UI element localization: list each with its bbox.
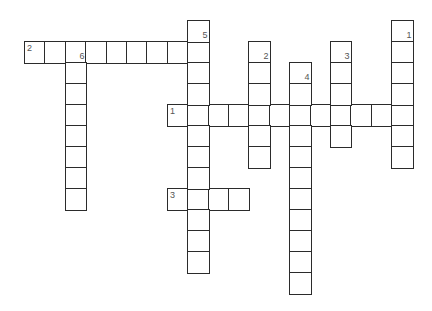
crossword-cell[interactable] bbox=[187, 251, 210, 274]
clue-number-down-3: 3 bbox=[345, 52, 350, 61]
crossword-cell[interactable] bbox=[187, 125, 210, 148]
crossword-cell[interactable] bbox=[289, 272, 312, 295]
crossword-cell[interactable] bbox=[289, 125, 312, 148]
crossword-cell[interactable] bbox=[146, 41, 169, 64]
crossword-cell[interactable] bbox=[65, 188, 87, 211]
crossword-cell[interactable] bbox=[371, 104, 393, 127]
crossword-cell[interactable] bbox=[65, 62, 87, 85]
crossword-cell[interactable] bbox=[65, 104, 87, 127]
crossword-cell[interactable] bbox=[248, 146, 271, 169]
crossword-cell[interactable]: 1 bbox=[167, 104, 189, 127]
crossword-cell[interactable] bbox=[289, 104, 312, 127]
crossword-cell[interactable] bbox=[289, 230, 312, 253]
crossword-cell[interactable]: 5 bbox=[187, 20, 210, 43]
crossword-cell[interactable] bbox=[208, 188, 230, 211]
crossword-cell[interactable] bbox=[187, 83, 210, 106]
crossword-cell[interactable] bbox=[248, 83, 271, 106]
crossword-cell[interactable] bbox=[248, 62, 271, 85]
crossword-cell[interactable] bbox=[187, 41, 210, 64]
crossword-cell[interactable] bbox=[391, 41, 414, 64]
crossword-cell[interactable]: 2 bbox=[248, 41, 271, 64]
clue-number-across-2: 2 bbox=[27, 44, 32, 53]
crossword-cell[interactable] bbox=[289, 188, 312, 211]
crossword-cell[interactable]: 3 bbox=[167, 188, 189, 211]
crossword-cell[interactable] bbox=[106, 41, 128, 64]
crossword-cell[interactable] bbox=[248, 125, 271, 148]
crossword-cell[interactable] bbox=[65, 125, 87, 148]
crossword-cell[interactable] bbox=[269, 104, 291, 127]
crossword-cell[interactable] bbox=[187, 230, 210, 253]
crossword-cell[interactable] bbox=[228, 188, 250, 211]
crossword-cell[interactable] bbox=[289, 251, 312, 274]
crossword-cell[interactable] bbox=[391, 125, 414, 148]
crossword-cell[interactable] bbox=[391, 83, 414, 106]
crossword-cell[interactable]: 1 bbox=[391, 20, 414, 43]
crossword-cell[interactable] bbox=[350, 104, 373, 127]
crossword-cell[interactable] bbox=[289, 209, 312, 232]
crossword-cell[interactable] bbox=[187, 146, 210, 169]
crossword-cell[interactable] bbox=[330, 83, 352, 106]
crossword-cell[interactable] bbox=[289, 167, 312, 190]
crossword-cell[interactable] bbox=[44, 41, 67, 64]
clue-number-down-5: 5 bbox=[203, 31, 208, 40]
crossword-cell[interactable] bbox=[330, 125, 352, 148]
clue-number-across-1: 1 bbox=[170, 107, 175, 116]
crossword-cell[interactable] bbox=[187, 62, 210, 85]
crossword-cell[interactable] bbox=[330, 62, 352, 85]
crossword-cell[interactable]: 6 bbox=[65, 41, 87, 64]
crossword-cell[interactable] bbox=[126, 41, 148, 64]
crossword-cell[interactable] bbox=[85, 41, 108, 64]
crossword-cell[interactable] bbox=[187, 209, 210, 232]
crossword-cell[interactable]: 2 bbox=[24, 41, 46, 64]
clue-number-across-3: 3 bbox=[170, 191, 175, 200]
clue-number-down-1: 1 bbox=[407, 31, 412, 40]
crossword-cell[interactable] bbox=[391, 62, 414, 85]
crossword-cell[interactable] bbox=[289, 83, 312, 106]
crossword-cell[interactable] bbox=[187, 167, 210, 190]
crossword-cell[interactable] bbox=[289, 146, 312, 169]
crossword-cell[interactable] bbox=[310, 104, 332, 127]
crossword-cell[interactable] bbox=[248, 104, 271, 127]
crossword-cell[interactable] bbox=[65, 167, 87, 190]
clue-number-down-4: 4 bbox=[305, 73, 310, 82]
crossword-cell[interactable]: 3 bbox=[330, 41, 352, 64]
crossword-cell[interactable] bbox=[65, 146, 87, 169]
crossword-cell[interactable] bbox=[228, 104, 250, 127]
crossword-cell[interactable] bbox=[65, 83, 87, 106]
crossword-cell[interactable] bbox=[208, 104, 230, 127]
crossword-cell[interactable] bbox=[330, 104, 352, 127]
crossword-cell[interactable] bbox=[167, 41, 189, 64]
crossword-grid: 261352431 bbox=[0, 0, 432, 311]
crossword-cell[interactable] bbox=[187, 188, 210, 211]
crossword-cell[interactable] bbox=[391, 104, 414, 127]
clue-number-down-6: 6 bbox=[80, 52, 85, 61]
clue-number-down-2: 2 bbox=[264, 52, 269, 61]
crossword-cell[interactable] bbox=[187, 104, 210, 127]
crossword-cell[interactable] bbox=[391, 146, 414, 169]
crossword-cell[interactable]: 4 bbox=[289, 62, 312, 85]
